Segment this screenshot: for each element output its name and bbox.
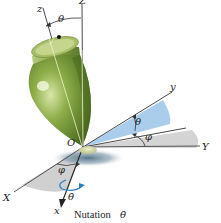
label-Z: Z: [78, 0, 87, 6]
nutation-arrowhead-icon: [79, 183, 85, 189]
label-phi-left: φ: [58, 164, 65, 175]
top-highlight: [37, 81, 49, 91]
nutation-diagram: Z z θ y θ φ Y O φ X θ̇ x Nutation θ̇: [0, 0, 221, 223]
top-base: [79, 146, 97, 154]
label-x: x: [54, 205, 60, 216]
label-theta-top: θ: [58, 13, 64, 24]
label-Y: Y: [202, 141, 210, 152]
x-axis-arrowhead: [59, 199, 66, 208]
label-z: z: [36, 3, 43, 14]
caption-symbol: θ̇: [120, 209, 126, 220]
label-O: O: [67, 137, 75, 148]
label-phi-right: φ: [145, 131, 152, 142]
label-theta-dot: θ̇: [68, 191, 74, 202]
caption-text: Nutation: [74, 209, 111, 220]
label-theta-right: θ: [135, 116, 141, 127]
label-X: X: [2, 192, 11, 203]
theta-arc-arrowhead: [46, 22, 51, 27]
top-marker-dot: [57, 35, 61, 39]
label-y: y: [169, 81, 176, 92]
